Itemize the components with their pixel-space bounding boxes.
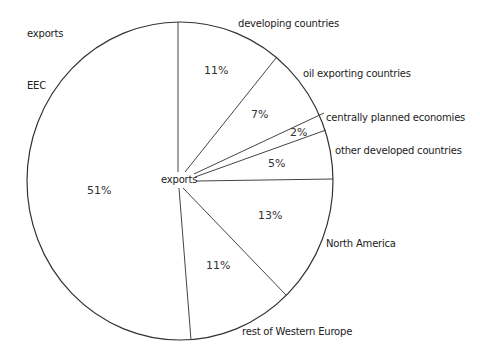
legend-label-oil-exporting-countries: oil exporting countries (303, 68, 411, 79)
center-label: exports (161, 174, 197, 185)
percent-developing: 11% (204, 64, 228, 77)
divider-other-northamerica (196, 179, 333, 181)
divider-northamerica-restwe (183, 188, 286, 295)
legend-label-other-developed-countries: other developed countries (335, 145, 462, 156)
divider-oil-centrally (194, 113, 324, 174)
percent-centrally: 2% (290, 126, 307, 139)
legend-label-centrally-planned-economies: centrally planned economies (326, 112, 465, 123)
divider-restwe-eec (179, 188, 191, 340)
percent-eec: 51% (87, 184, 111, 197)
percent-oil: 7% (251, 108, 268, 121)
chart-title: exports (27, 28, 63, 39)
percent-rest-western-europe: 11% (206, 259, 230, 272)
percent-north-america: 13% (258, 209, 282, 222)
pie-chart (0, 0, 480, 361)
percent-other-developed: 5% (268, 157, 285, 170)
legend-label-developing-countries: developing countries (238, 18, 339, 29)
legend-label-eec: EEC (27, 80, 46, 91)
legend-label-rest-of-western-europe: rest of Western Europe (242, 326, 352, 337)
legend-label-north-america: North America (326, 238, 396, 249)
